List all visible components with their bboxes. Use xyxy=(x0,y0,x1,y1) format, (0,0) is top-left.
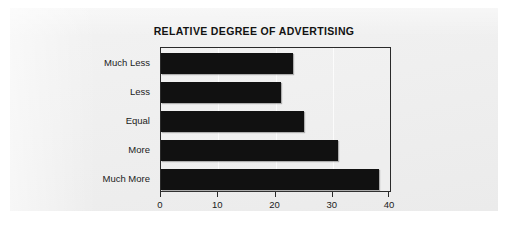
x-tick-label-20: 20 xyxy=(269,199,280,210)
bar-row xyxy=(161,78,390,107)
x-tickmark-40 xyxy=(388,192,389,197)
x-tick-label-30: 30 xyxy=(326,199,337,210)
bar-less xyxy=(161,82,281,103)
bar-more xyxy=(161,140,338,161)
bar-row xyxy=(161,49,390,78)
bar-rows xyxy=(161,48,390,191)
bar-chart-figure: RELATIVE DEGREE OF ADVERTISING xyxy=(0,0,508,227)
x-tickmark-20 xyxy=(275,192,276,197)
plot-area xyxy=(160,47,391,192)
x-axis: 0 10 20 30 40 xyxy=(160,192,391,216)
y-axis-labels: Much Less Less Equal More Much More xyxy=(60,47,156,192)
y-tick-label-equal: Equal xyxy=(126,106,150,135)
bar-equal xyxy=(161,111,304,132)
y-tick-label-less: Less xyxy=(130,77,150,106)
bar-row xyxy=(161,107,390,136)
bar-much-less xyxy=(161,53,293,74)
x-tick-label-10: 10 xyxy=(212,199,223,210)
x-tickmark-0 xyxy=(160,192,161,197)
scanned-page: RELATIVE DEGREE OF ADVERTISING xyxy=(0,0,508,227)
x-tick-label-0: 0 xyxy=(157,199,162,210)
bar-much-more xyxy=(161,169,379,190)
y-tick-label-more: More xyxy=(128,135,150,164)
x-tickmark-10 xyxy=(217,192,218,197)
y-tick-label-much-less: Much Less xyxy=(104,48,150,77)
chart-title: RELATIVE DEGREE OF ADVERTISING xyxy=(0,25,508,37)
x-tick-label-40: 40 xyxy=(384,199,395,210)
bar-row xyxy=(161,136,390,165)
bar-row xyxy=(161,165,390,194)
x-tickmark-30 xyxy=(332,192,333,197)
y-tick-label-much-more: Much More xyxy=(102,164,150,193)
